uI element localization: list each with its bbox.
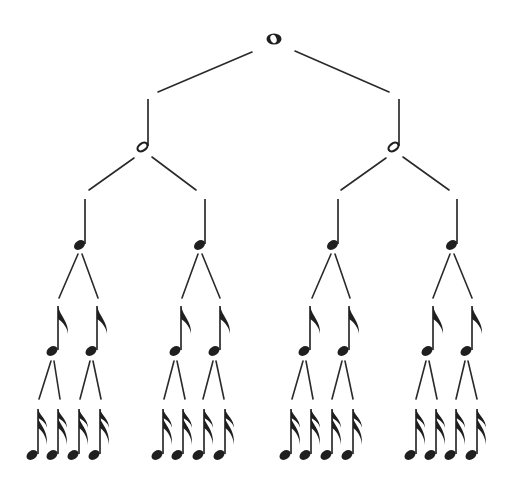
sixteenth-note-icon bbox=[298, 409, 320, 462]
connectors-level-3 bbox=[59, 254, 472, 298]
eighth-note-icon bbox=[207, 306, 230, 358]
eighth-notes bbox=[45, 306, 482, 358]
eighth-note-icon bbox=[297, 306, 320, 358]
sixteenth-note-icon bbox=[170, 409, 192, 462]
connectors-level-1 bbox=[158, 51, 389, 92]
eighth-note-icon bbox=[336, 306, 359, 358]
sixteenth-note-icon bbox=[212, 409, 234, 462]
sixteenth-note-icon bbox=[340, 409, 362, 462]
quarter-note-icon bbox=[72, 199, 87, 252]
sixteenth-notes bbox=[25, 409, 486, 462]
sixteenth-note-icon bbox=[443, 409, 465, 462]
eighth-note-icon bbox=[168, 306, 191, 358]
quarter-note-icon bbox=[325, 199, 340, 252]
half-note-icon bbox=[136, 99, 149, 153]
eighth-note-icon bbox=[459, 306, 482, 358]
sixteenth-note-icon bbox=[150, 409, 172, 462]
sixteenth-note-icon bbox=[319, 409, 341, 462]
sixteenth-note-icon bbox=[191, 409, 213, 462]
sixteenth-note-icon bbox=[45, 409, 67, 462]
eighth-note-icon bbox=[84, 306, 107, 358]
sixteenth-note-icon bbox=[66, 409, 88, 462]
half-note-icon bbox=[387, 99, 400, 153]
eighth-note-icon bbox=[45, 306, 68, 358]
quarter-note-icon bbox=[444, 199, 459, 252]
whole-note-icon bbox=[267, 34, 282, 45]
tree-svg bbox=[0, 0, 510, 485]
sixteenth-note-icon bbox=[25, 409, 47, 462]
sixteenth-note-icon bbox=[423, 409, 445, 462]
quarter-notes bbox=[72, 199, 459, 252]
eighth-note-icon bbox=[420, 306, 443, 358]
sixteenth-note-icon bbox=[403, 409, 425, 462]
quarter-note-icon bbox=[192, 199, 207, 252]
sixteenth-note-icon bbox=[87, 409, 109, 462]
connectors-level-2 bbox=[89, 157, 449, 190]
connectors-level-4 bbox=[39, 361, 477, 399]
note-value-tree-diagram: Note value subdivision tree bbox=[0, 0, 510, 485]
sixteenth-note-icon bbox=[464, 409, 486, 462]
sixteenth-note-icon bbox=[278, 409, 300, 462]
